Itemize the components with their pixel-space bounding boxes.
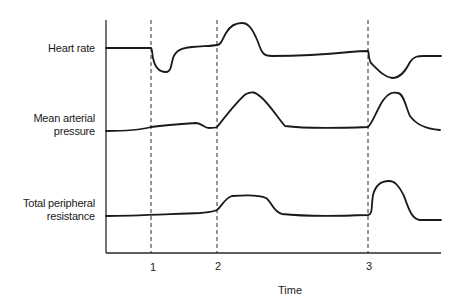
mean-arterial-pressure-label-line2: pressure [54,125,95,137]
x-tick-3: 3 [366,260,372,272]
x-tick-2: 2 [215,260,221,272]
total-peripheral-resistance-line [106,181,441,220]
physiology-chart: Heart rate Mean arterial pressure Total … [0,0,462,307]
heart-rate-line [106,23,441,78]
x-axis-title: Time [278,284,302,296]
mean-arterial-pressure-line [106,92,440,131]
total-peripheral-resistance-label-line2: resistance [47,210,95,222]
mean-arterial-pressure-label-line1: Mean arterial [33,112,95,124]
x-tick-1: 1 [150,261,156,273]
heart-rate-label: Heart rate [48,42,95,54]
total-peripheral-resistance-label-line1: Total peripheral [23,197,95,209]
